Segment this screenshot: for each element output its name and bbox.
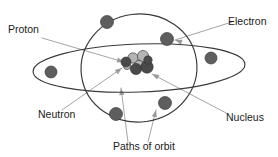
label-paths-of-orbit: Paths of orbit	[113, 140, 175, 152]
label-nucleus: Nucleus	[226, 111, 264, 123]
electron-top-left	[101, 16, 114, 29]
electron-top-right	[161, 33, 174, 46]
atom-structure-diagram: ProtonElectronNeutronNucleusPaths of orb…	[0, 0, 278, 157]
electron-bottom-right	[159, 97, 172, 110]
neutron-1	[121, 57, 131, 67]
label-neutron: Neutron	[38, 108, 76, 120]
label-proton: Proton	[8, 23, 39, 35]
neutron-2	[130, 63, 141, 74]
electron-bottom-left	[110, 108, 123, 121]
label-electron: Electron	[228, 15, 267, 27]
electron-right	[205, 52, 217, 64]
electron-left	[45, 66, 57, 78]
neutron-4	[144, 56, 152, 64]
